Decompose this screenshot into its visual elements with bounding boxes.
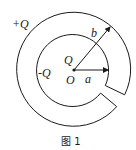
slit-wall-lower xyxy=(101,93,117,107)
center-point-label: O xyxy=(66,73,75,87)
concentric-shells-diagram: +Q b Q -Q O a 图 1 xyxy=(0,0,136,150)
center-charge-label: Q xyxy=(64,53,73,67)
outer-charge-label: +Q xyxy=(12,17,29,31)
outer-radius-label: b xyxy=(91,26,97,40)
inner-shell-charge-label: -Q xyxy=(38,66,51,80)
figure-caption: 图 1 xyxy=(61,136,81,147)
slit-wall-upper xyxy=(105,86,124,95)
inner-radius-label: a xyxy=(85,72,91,86)
